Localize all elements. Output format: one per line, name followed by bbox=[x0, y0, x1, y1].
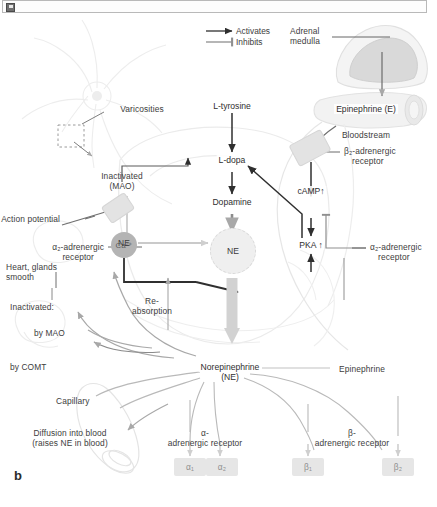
varicosities-label: Varicosities bbox=[120, 104, 163, 114]
diffusion-label-line1: Diffusion into blood bbox=[33, 428, 106, 438]
legend-activates-label: Activates bbox=[236, 26, 270, 36]
legend-symbols bbox=[206, 31, 233, 42]
diffusion-arrow bbox=[128, 404, 168, 430]
calcium-signal-line bbox=[124, 258, 196, 282]
bloodstream-label: Bloodstream bbox=[342, 130, 390, 140]
adrenal-medulla-label-line2: medulla bbox=[290, 36, 320, 46]
alpha2-left-receptor-label-line2: receptor bbox=[62, 252, 94, 262]
diffusion-label-line2: (raises NE in blood) bbox=[32, 438, 108, 448]
norepinephrine-node-line1: Norepinephrine bbox=[199, 362, 262, 372]
alpha2-label: α₂ bbox=[218, 462, 226, 472]
action-potential-label: Action potential bbox=[1, 214, 60, 224]
epinephrine-label: Epinephrine bbox=[339, 364, 385, 374]
l-tyrosine-node: L-tyrosine bbox=[211, 101, 253, 111]
l-dopa-node: L-dopa bbox=[217, 155, 248, 165]
ne-release-arrowhead bbox=[224, 328, 240, 344]
ne-vesicle-label: NE bbox=[227, 246, 239, 256]
by-comt-label: by COMT bbox=[10, 362, 47, 372]
figure-canvas: Ca²⁺ NE Activates Inhibits Adrenal medul… bbox=[0, 0, 437, 507]
adrenal-medulla-label-line1: Adrenal bbox=[290, 26, 320, 36]
beta2-receptor-label-line1: β₂-adrenergic bbox=[344, 146, 396, 156]
panel-letter: b bbox=[14, 468, 22, 483]
alpha1-label: α₁ bbox=[186, 462, 194, 472]
beta2-receptor-label-line2: receptor bbox=[352, 156, 384, 166]
norepinephrine-node-line2: (NE) bbox=[219, 372, 241, 382]
alpha2-right-receptor-label-line2: receptor bbox=[378, 252, 410, 262]
epinephrine-e-node: Epinephrine (E) bbox=[334, 104, 398, 114]
beta-receptor-group-label-line1: β- bbox=[348, 428, 356, 438]
pka-node: PKA ↑ bbox=[297, 240, 324, 250]
alpha-receptor-group-label-line1: α- bbox=[201, 428, 209, 438]
alpha2-right-inhibit-line bbox=[326, 214, 366, 248]
inactivated-mao-label-line1: Inactivated bbox=[101, 171, 143, 181]
by-mao-label: by MAO bbox=[34, 328, 65, 338]
legend-inhibits-label: Inhibits bbox=[236, 37, 263, 47]
pka-feedback-arrow bbox=[248, 166, 302, 238]
alpha-receptor-group-label-line2: adrenergic receptor bbox=[168, 438, 243, 448]
capillary-label: Capillary bbox=[56, 396, 89, 406]
alpha2-right-receptor-label-line1: α₂-adrenergic bbox=[370, 242, 422, 252]
beta2-label: β₂ bbox=[394, 462, 402, 472]
varicosities-callout bbox=[58, 112, 104, 156]
reabsorption-label-line1: Re- bbox=[145, 296, 159, 306]
camp-node: cAMP↑ bbox=[295, 186, 326, 196]
alpha2-left-receptor-label-line1: α₂-adrenergic bbox=[52, 242, 104, 252]
dopamine-node: Dopamine bbox=[210, 197, 253, 207]
inactivated-label: Inactivated: bbox=[10, 302, 54, 312]
beta-receptor-group-label-line2: adrenergic receptor bbox=[315, 438, 390, 448]
reabsorption-label-line2: absorption bbox=[132, 306, 172, 316]
inactivated-mao-label-line2: (MAO) bbox=[109, 181, 134, 191]
ne-cytosol-label: NE bbox=[118, 238, 130, 248]
alpha2-left-target-line1: Heart, glands bbox=[6, 262, 57, 272]
alpha2-left-target-line2: smooth bbox=[6, 272, 34, 282]
ne-vesicle: NE bbox=[210, 228, 256, 274]
beta1-label: β₁ bbox=[304, 462, 312, 472]
